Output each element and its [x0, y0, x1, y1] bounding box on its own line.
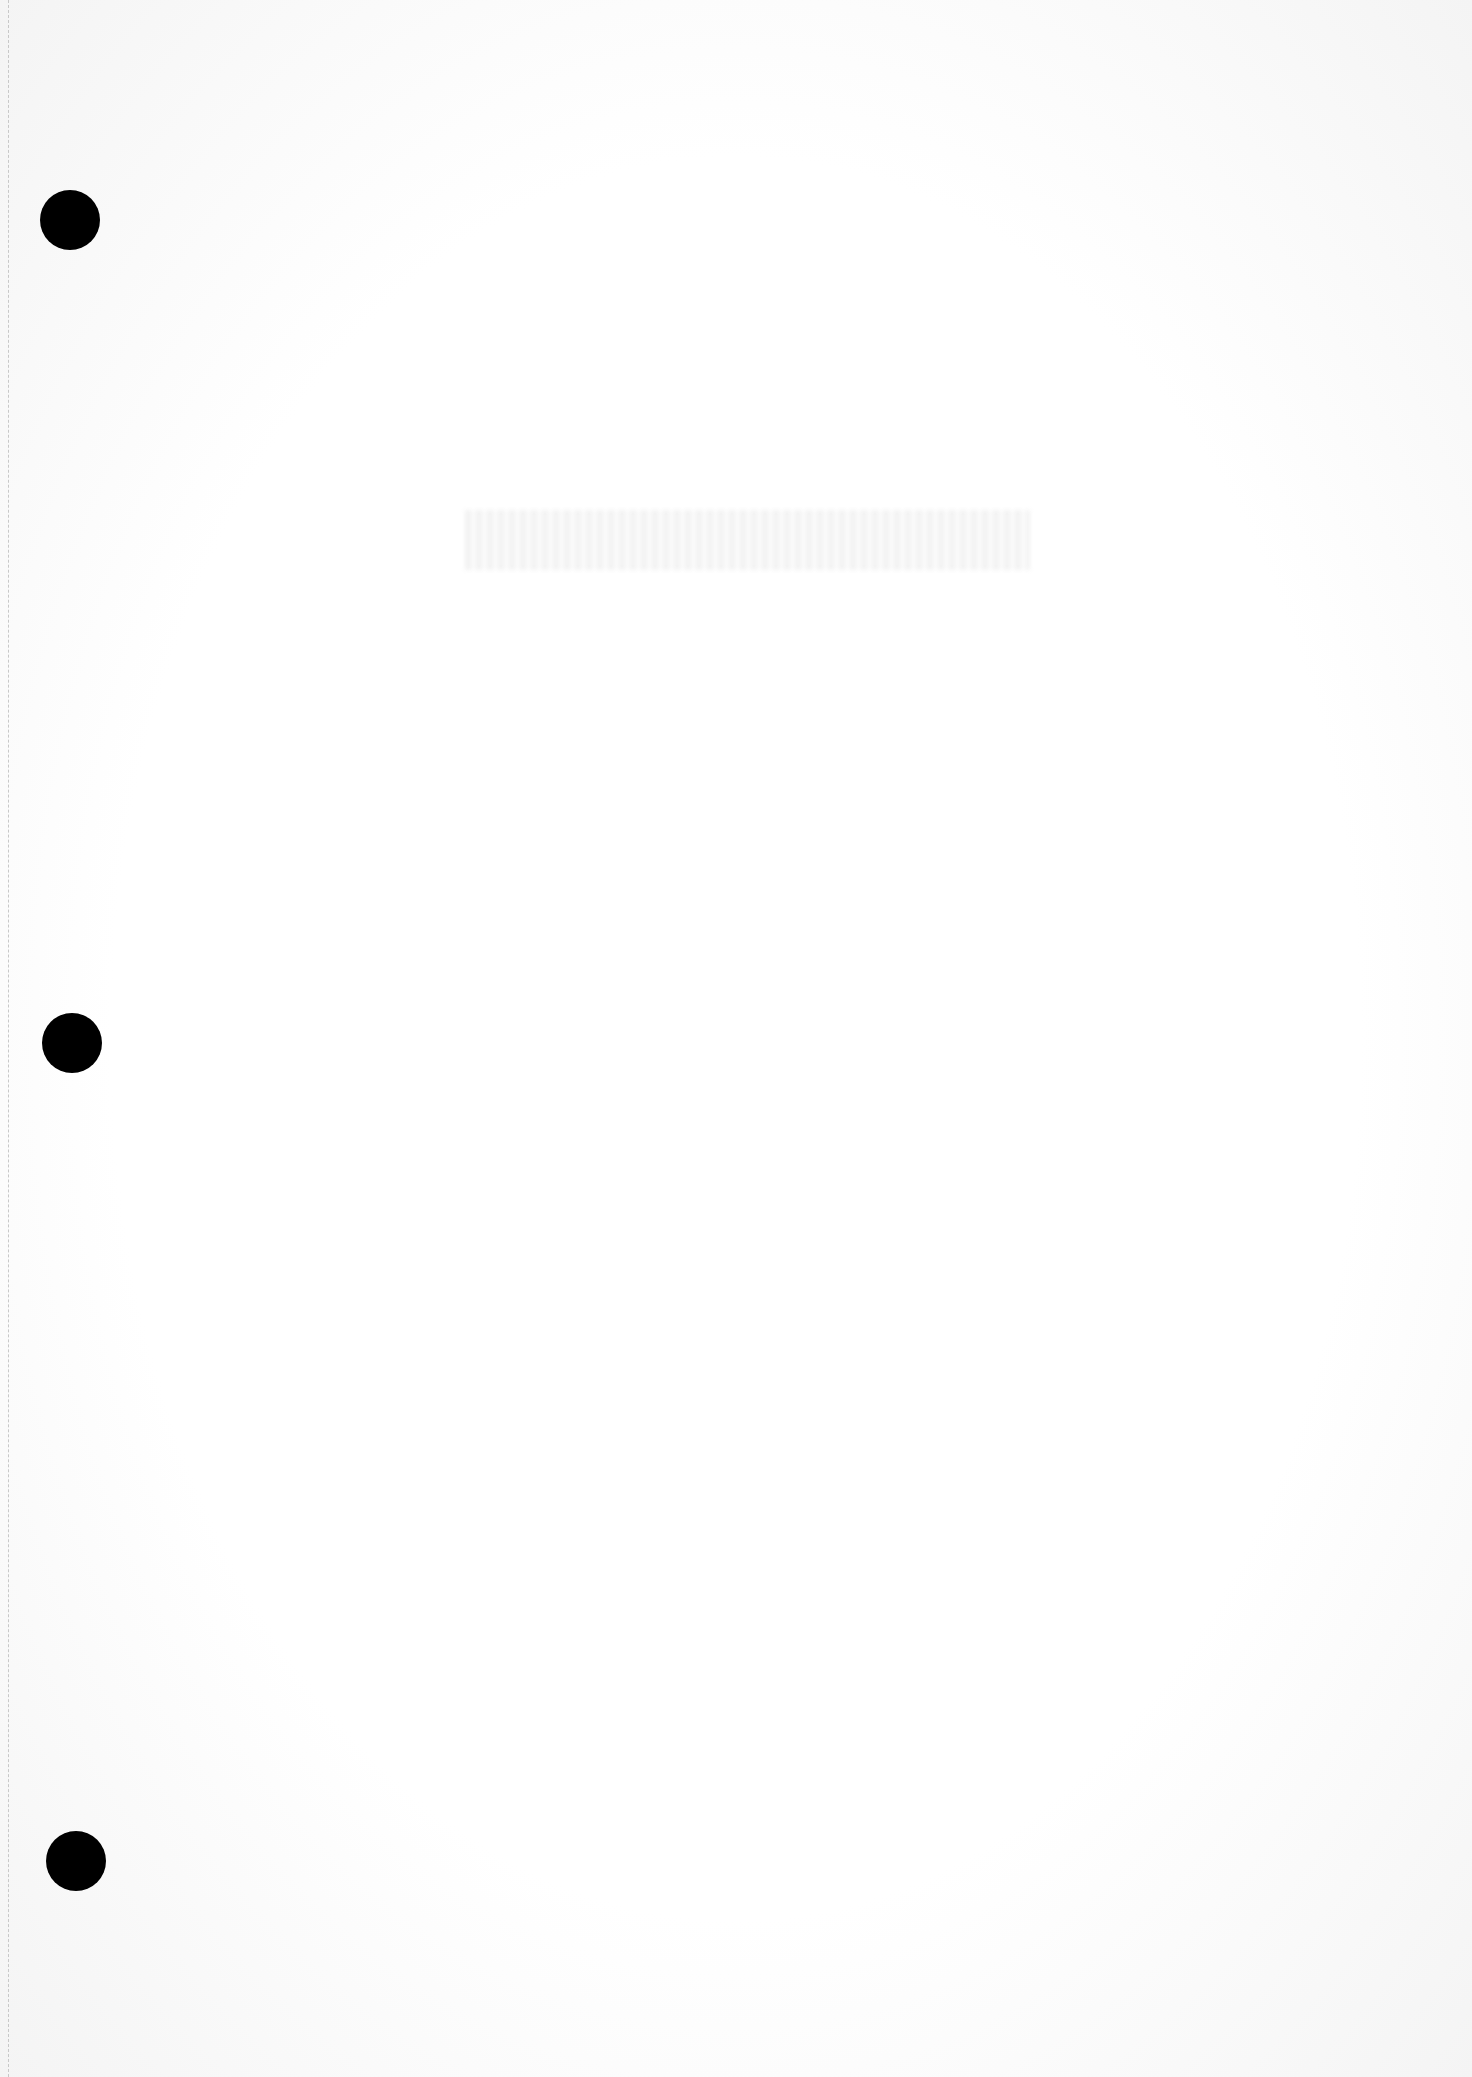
- binder-hole-3: [46, 1831, 106, 1891]
- bleed-through-text: [465, 510, 1030, 570]
- binder-hole-2: [42, 1013, 102, 1073]
- paper-sheet: [0, 0, 1472, 2077]
- binder-hole-1: [40, 190, 100, 250]
- perforation-edge: [8, 0, 9, 2077]
